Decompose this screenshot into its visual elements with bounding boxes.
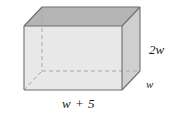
width-dimension-label: w + 5 — [62, 97, 95, 110]
height-dimension-label: 2w — [149, 43, 164, 56]
top-face — [24, 7, 140, 26]
box-figure: 2w w w + 5 — [0, 0, 175, 116]
depth-dimension-label: w — [146, 79, 153, 90]
front-face — [24, 26, 122, 90]
